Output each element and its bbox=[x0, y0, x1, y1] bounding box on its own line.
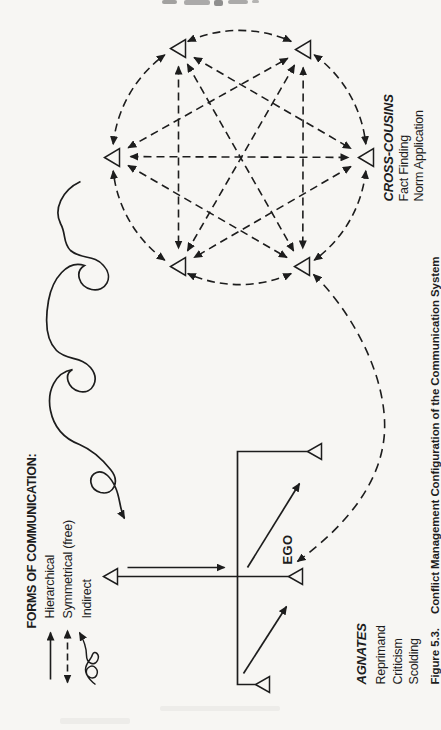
cross-cousin-triangle bbox=[294, 257, 309, 275]
agnate-triangle bbox=[307, 443, 321, 459]
figure-caption-title: Conflict Management Configuration of the… bbox=[428, 256, 440, 613]
cross-cousin-triangle bbox=[295, 40, 310, 58]
cross-cousin-triangle bbox=[104, 148, 119, 166]
cross-cousin-triangle bbox=[170, 39, 185, 57]
agnates-title: AGNATES bbox=[354, 623, 368, 684]
legend-item-indirect: Indirect bbox=[80, 579, 94, 618]
figure-caption-number: Figure 5.3. bbox=[428, 628, 440, 684]
figure-drawing bbox=[0, 0, 441, 730]
legend-item-hierarchical: Hierarchical bbox=[43, 554, 57, 618]
legend-symbols bbox=[50, 630, 98, 684]
cross-cousins-function: Fact Finding bbox=[397, 135, 411, 201]
cross-cousins-title: CROSS-COUSINS bbox=[381, 94, 395, 201]
agnates-function: Scolding bbox=[407, 638, 421, 684]
agnate-triangle bbox=[103, 568, 117, 584]
network-edge bbox=[194, 57, 351, 148]
agnate-triangle bbox=[255, 676, 269, 692]
ego-crosscousins-link bbox=[297, 274, 384, 561]
network-edge bbox=[187, 273, 290, 284]
ego-triangle bbox=[288, 568, 302, 584]
ego-label: EGO bbox=[280, 534, 294, 564]
hierarchical-arrows bbox=[127, 483, 299, 673]
cross-cousin-triangle bbox=[170, 257, 185, 275]
scanned-page: FORMS OF COMMUNICATION: Hierarchical Sym… bbox=[0, 0, 441, 730]
network-edge bbox=[113, 54, 165, 143]
network-edge bbox=[314, 170, 366, 259]
network-edge bbox=[128, 58, 288, 147]
figure-caption: Figure 5.3.Conflict Management Configura… bbox=[428, 256, 441, 684]
legend-item-symmetrical: Symmetrical (free) bbox=[61, 520, 75, 619]
cross-cousins-function: Norm Application bbox=[412, 110, 426, 201]
cross-cousins-network bbox=[113, 30, 366, 284]
network-chords bbox=[128, 57, 351, 257]
hierarchical-arrow bbox=[243, 606, 286, 673]
legend-heading: FORMS OF COMMUNICATION: bbox=[25, 453, 39, 628]
cross-cousin-triangle bbox=[358, 148, 373, 166]
network-edge bbox=[113, 170, 165, 259]
agnates-function: Criticism bbox=[391, 638, 405, 684]
rotated-figure-canvas: FORMS OF COMMUNICATION: Hierarchical Sym… bbox=[0, 0, 441, 730]
network-edge bbox=[187, 30, 290, 41]
legend-loop-arrow-icon bbox=[79, 632, 98, 684]
network-edge bbox=[314, 54, 366, 143]
indirect-spiral-line bbox=[46, 181, 124, 518]
network-edge bbox=[128, 165, 287, 257]
agnates-function: Reprimand bbox=[374, 625, 388, 684]
